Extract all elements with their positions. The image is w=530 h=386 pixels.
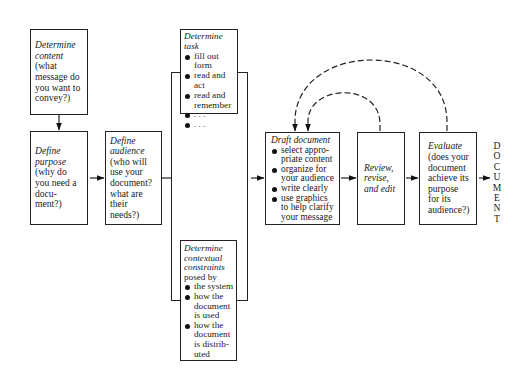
constraint-item: how the document is used bbox=[184, 292, 234, 321]
constraint-item: how the document is distrib-uted bbox=[184, 321, 234, 359]
node-evaluate: Evaluate (does your document achieve its… bbox=[419, 132, 477, 225]
node-title: Define purpose bbox=[35, 146, 83, 167]
node-define-audience: Define audience (who will use your docum… bbox=[105, 131, 162, 225]
node-text: (what message do you want to convey?) bbox=[35, 61, 83, 103]
task-list: fill out form read and act read and reme… bbox=[184, 52, 235, 130]
task-item: . . . bbox=[184, 110, 235, 120]
dashed-arrow-review-to-draft bbox=[308, 93, 380, 131]
node-determine-task: Determine task fill out form read and ac… bbox=[180, 29, 238, 114]
node-text: (who will use your document? what are th… bbox=[110, 157, 157, 221]
task-item: read and act bbox=[184, 71, 235, 91]
draft-item: use graphics to help clarify your messag… bbox=[271, 194, 336, 223]
node-determine-content: Determine content (what message do you w… bbox=[30, 29, 88, 115]
draft-list: select appro-priate content organize for… bbox=[271, 146, 336, 223]
node-text: (does your document achieve its purpose … bbox=[428, 152, 470, 216]
dashed-arrow-evaluate-to-draft bbox=[295, 60, 447, 131]
draft-item: select appro-priate content bbox=[271, 146, 336, 165]
task-item: read and remember bbox=[184, 91, 235, 111]
node-title: Define audience bbox=[110, 136, 157, 157]
constraints-list: the system how the document is used how … bbox=[184, 282, 234, 359]
node-title: Determine content bbox=[35, 40, 83, 61]
draft-item: organize for your audience bbox=[271, 165, 336, 184]
task-item: . . . bbox=[184, 120, 235, 130]
node-determine-constraints: Determine contextual constraints posed b… bbox=[180, 240, 237, 361]
node-title: Determine task bbox=[184, 32, 235, 52]
node-text: (why do you need a docu-ment?) bbox=[35, 167, 83, 209]
node-review: Review, revise, and edit bbox=[357, 132, 405, 225]
document-output-label: D O C U M E N T bbox=[491, 141, 503, 224]
letter: T bbox=[491, 214, 503, 224]
node-draft-document: Draft document select appro-priate conte… bbox=[265, 132, 340, 225]
node-define-purpose: Define purpose (why do you need a docu-m… bbox=[30, 131, 88, 225]
node-title: Determine contextual constraints bbox=[184, 244, 234, 273]
task-item: fill out form bbox=[184, 52, 235, 72]
node-title: Review, revise, and edit bbox=[364, 163, 398, 195]
